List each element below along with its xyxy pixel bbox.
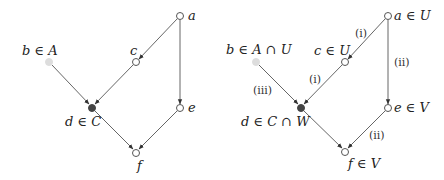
right-graph: a ∈ U b ∈ A ∩ U c ∈ U d ∈ C ∩ W e ∈ V f …	[226, 8, 432, 171]
edge-label-b-d: (iii)	[253, 84, 272, 97]
node-e	[385, 105, 392, 112]
label-b: b ∈ A ∩ U	[226, 42, 293, 57]
label-d: d ∈ C	[65, 114, 101, 129]
label-c: c	[130, 43, 138, 58]
edge-label-a-c: (i)	[355, 27, 367, 40]
edge-c-d	[95, 65, 133, 104]
node-c	[133, 59, 140, 66]
label-d: d ∈ C ∩ W	[241, 114, 311, 129]
node-c	[342, 59, 349, 66]
node-b	[253, 59, 260, 66]
label-f: f	[136, 158, 144, 173]
label-e: e	[188, 100, 196, 115]
node-a	[385, 13, 392, 20]
edge-label-c-d: (i)	[309, 73, 321, 86]
edge-e-f	[139, 111, 177, 149]
node-b	[46, 59, 53, 66]
label-f: f ∈ V	[347, 156, 382, 171]
node-f	[133, 150, 140, 157]
label-a: a	[188, 8, 196, 23]
label-a: a ∈ U	[394, 8, 432, 23]
node-d	[298, 105, 305, 112]
node-d	[89, 105, 96, 112]
node-f	[342, 149, 349, 156]
node-a	[177, 13, 184, 20]
node-e	[177, 105, 184, 112]
diagram-canvas: a b ∈ A c d ∈ C e f a ∈ U b ∈ A ∩ U c ∈ …	[0, 0, 444, 180]
label-b: b ∈ A	[22, 43, 58, 58]
edge-a-c	[139, 19, 177, 59]
left-graph: a b ∈ A c d ∈ C e f	[22, 8, 196, 173]
label-e: e ∈ V	[394, 100, 431, 115]
edge-label-e-f: (ii)	[369, 129, 385, 142]
edge-label-a-e: (ii)	[394, 56, 410, 69]
label-c: c ∈ U	[314, 43, 351, 58]
edge-b-d	[52, 65, 89, 104]
edge-d-f	[304, 111, 342, 148]
